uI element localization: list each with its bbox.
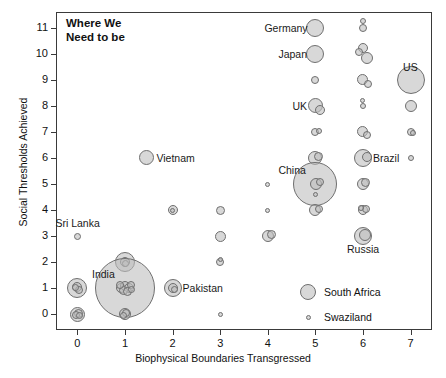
y-tick-label: 11	[26, 21, 48, 33]
y-tick-label: 4	[26, 203, 48, 215]
x-tick-mark	[268, 330, 269, 335]
data-bubble	[405, 100, 417, 112]
legend-item: Swaziland	[300, 310, 372, 323]
chart-title: Where We Need to be	[66, 16, 125, 45]
x-tick-mark	[77, 330, 78, 335]
data-bubble	[316, 128, 322, 134]
x-tick-label: 6	[350, 337, 376, 349]
y-tick-label: 7	[26, 125, 48, 137]
x-tick-label: 7	[398, 337, 424, 349]
x-axis-label: Biophysical Boundaries Transgressed	[0, 352, 446, 364]
y-tick-label: 10	[26, 47, 48, 59]
data-bubble	[360, 103, 366, 109]
y-tick-mark	[51, 106, 56, 107]
data-bubble	[265, 182, 270, 187]
y-tick-label: 1	[26, 281, 48, 293]
y-tick-mark	[51, 236, 56, 237]
y-tick-mark	[51, 314, 56, 315]
x-tick-label: 1	[112, 337, 138, 349]
data-bubble	[306, 45, 324, 63]
data-bubble	[314, 152, 323, 161]
y-tick-label: 0	[26, 307, 48, 319]
point-label: Pakistan	[183, 283, 223, 294]
data-bubble	[265, 208, 270, 213]
y-tick-mark	[51, 184, 56, 185]
y-tick-label: 5	[26, 177, 48, 189]
bubble-chart: Where We Need to be Social Thresholds Ac…	[0, 0, 446, 378]
point-label: Sri Lanka	[55, 218, 99, 229]
x-tick-label: 0	[64, 337, 90, 349]
y-tick-mark	[51, 288, 56, 289]
legend-label: South Africa	[324, 286, 381, 298]
data-bubble	[216, 206, 225, 215]
y-tick-mark	[51, 158, 56, 159]
data-bubble	[364, 80, 372, 88]
x-tick-label: 2	[160, 337, 186, 349]
x-tick-mark	[315, 330, 316, 335]
point-label: China	[278, 165, 305, 176]
y-tick-mark	[51, 262, 56, 263]
data-bubble	[315, 105, 325, 115]
legend-label: Swaziland	[324, 311, 372, 323]
x-tick-mark	[411, 330, 412, 335]
data-bubble	[215, 231, 226, 242]
data-bubble	[171, 286, 178, 293]
y-tick-label: 6	[26, 151, 48, 163]
point-label: Brazil	[373, 153, 399, 164]
y-tick-mark	[51, 28, 56, 29]
legend-marker	[306, 315, 311, 320]
x-tick-mark	[220, 330, 221, 335]
y-tick-label: 9	[26, 73, 48, 85]
data-bubble	[218, 312, 223, 317]
point-label: Germany	[264, 23, 307, 34]
point-label: Russia	[347, 244, 379, 255]
legend-marker	[300, 284, 316, 300]
x-tick-label: 3	[207, 337, 233, 349]
point-label: UK	[292, 101, 307, 112]
y-tick-mark	[51, 54, 56, 55]
x-tick-label: 5	[302, 337, 328, 349]
data-bubble	[363, 131, 371, 139]
point-label: India	[92, 269, 115, 280]
data-bubble	[313, 192, 318, 197]
point-label: Vietnam	[156, 153, 194, 164]
y-tick-label: 2	[26, 255, 48, 267]
legend-item: South Africa	[300, 284, 381, 300]
data-bubble	[358, 205, 364, 211]
data-bubble	[408, 155, 414, 161]
data-bubble	[359, 24, 367, 32]
data-bubble	[362, 152, 372, 162]
data-bubble	[170, 208, 175, 213]
y-tick-label: 3	[26, 229, 48, 241]
y-tick-label: 8	[26, 99, 48, 111]
data-bubble	[306, 19, 324, 37]
x-tick-mark	[125, 330, 126, 335]
data-bubble	[120, 312, 127, 319]
point-label: US	[403, 62, 418, 73]
y-tick-mark	[51, 132, 56, 133]
x-tick-label: 4	[255, 337, 281, 349]
y-tick-mark	[51, 80, 56, 81]
data-bubble	[315, 205, 323, 213]
point-label: Japan	[278, 49, 307, 60]
y-tick-mark	[51, 210, 56, 211]
data-bubble	[218, 257, 223, 262]
x-tick-mark	[173, 330, 174, 335]
x-tick-mark	[363, 330, 364, 335]
data-bubble	[74, 233, 81, 240]
